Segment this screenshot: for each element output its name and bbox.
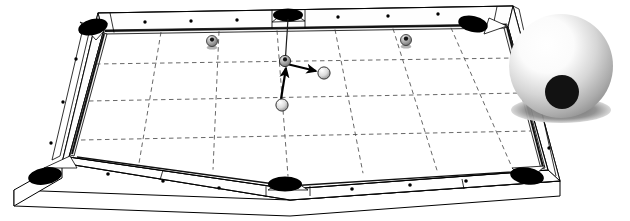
diamond-bottom-2	[161, 179, 165, 183]
table-bed	[69, 27, 548, 189]
diamond-bottom-1	[106, 172, 110, 176]
diamond-bottom-3	[217, 186, 221, 190]
diamond-right-3	[547, 146, 550, 149]
pocket-bottom-middle	[268, 177, 302, 192]
diamond-top-2	[189, 19, 192, 22]
object-ball-top-right-spot	[404, 36, 408, 40]
magnified-cue-ball	[509, 14, 613, 123]
diamond-bottom-6	[464, 179, 468, 183]
diamond-top-3	[235, 18, 238, 21]
diamond-left-1	[74, 57, 77, 60]
object-ball-top-right	[401, 35, 412, 49]
magnified-ball-spot	[545, 75, 579, 109]
diamond-top-6	[436, 12, 439, 15]
diamond-bottom-5	[408, 183, 412, 187]
contact-ball-center	[279, 55, 290, 66]
cue-ball-lower	[276, 99, 288, 111]
diamond-left-2	[61, 100, 64, 103]
billiard-table-figure	[0, 0, 630, 221]
object-ball-top-left	[207, 36, 218, 50]
target-ball-right	[318, 67, 330, 79]
diamond-left-3	[49, 141, 52, 144]
diamond-bottom-4	[350, 187, 354, 191]
contact-ball-center-spot	[283, 57, 287, 61]
object-ball-top-left-spot	[210, 38, 214, 42]
diamond-top-1	[143, 20, 146, 23]
diamond-top-5	[386, 14, 389, 17]
diamond-top-4	[336, 15, 339, 18]
